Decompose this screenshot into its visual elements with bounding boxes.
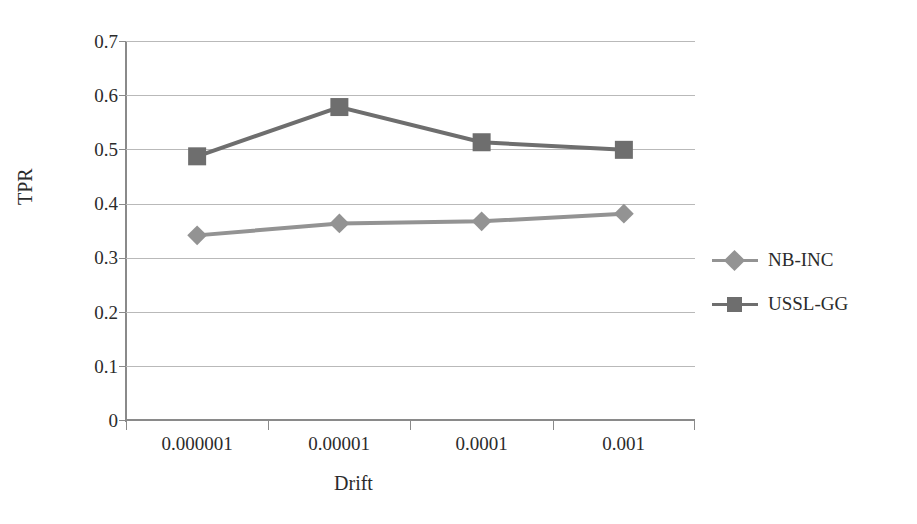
x-axis-tick: [268, 421, 269, 430]
x-axis-tick: [126, 421, 127, 430]
y-axis-tick-labels: 0.7 0.6 0.5 0.4 0.3 0.2 0.1 0: [58, 0, 118, 524]
legend-swatch-nb-inc: [712, 249, 758, 271]
diamond-marker: [329, 214, 349, 234]
diamond-marker-icon: [724, 250, 745, 271]
plot-area: [126, 41, 695, 420]
y-axis-tick: [119, 41, 126, 42]
square-marker: [473, 133, 491, 151]
series-nb-inc: [187, 204, 634, 245]
y-tick-label: 0.3: [72, 248, 118, 267]
series-line: [197, 214, 624, 236]
legend-item-ussl-gg[interactable]: USSL-GG: [712, 282, 902, 326]
x-axis-title-wrap: Drift: [0, 472, 917, 495]
x-axis-tick: [410, 421, 411, 430]
y-axis-tick: [119, 312, 126, 313]
chart-figure: TPR 0.7 0.6 0.5 0.4 0.3 0.2 0.1 0: [0, 0, 917, 524]
y-tick-label: 0.4: [72, 194, 118, 213]
series-plot: [126, 41, 695, 420]
legend: NB-INC USSL-GG: [712, 238, 902, 326]
y-axis-tick: [119, 149, 126, 150]
y-axis-tick: [119, 420, 126, 421]
x-axis-tick: [553, 421, 554, 430]
y-tick-label: 0.1: [72, 357, 118, 376]
x-tick-label: 0.00001: [268, 434, 410, 453]
y-axis-tick: [119, 258, 126, 259]
series-ussl-gg: [188, 98, 633, 165]
series-line: [197, 107, 624, 156]
x-tick-label: 0.000001: [126, 434, 268, 453]
legend-swatch-ussl-gg: [712, 293, 758, 315]
y-axis-title: TPR: [14, 168, 37, 205]
legend-label-nb-inc: NB-INC: [768, 249, 833, 271]
x-tick-label: 0.0001: [410, 434, 553, 453]
y-axis-tick: [119, 204, 126, 205]
y-tick-label: 0.5: [72, 140, 118, 159]
x-axis-tick: [694, 421, 695, 430]
square-marker: [615, 141, 633, 159]
y-axis-tick: [119, 95, 126, 96]
square-marker: [188, 147, 206, 165]
x-tick-label: 0.001: [553, 434, 694, 453]
y-axis-tick: [119, 366, 126, 367]
legend-label-ussl-gg: USSL-GG: [768, 293, 848, 315]
y-tick-label: 0.6: [72, 86, 118, 105]
legend-item-nb-inc[interactable]: NB-INC: [712, 238, 902, 282]
square-marker: [330, 98, 348, 116]
y-tick-label: 0.2: [72, 303, 118, 322]
y-tick-label: 0: [72, 411, 118, 430]
x-axis-title: Drift: [334, 472, 373, 495]
square-marker-icon: [727, 297, 742, 312]
diamond-marker: [187, 225, 207, 245]
diamond-marker: [614, 204, 634, 224]
y-tick-label: 0.7: [72, 32, 118, 51]
diamond-marker: [472, 211, 492, 231]
